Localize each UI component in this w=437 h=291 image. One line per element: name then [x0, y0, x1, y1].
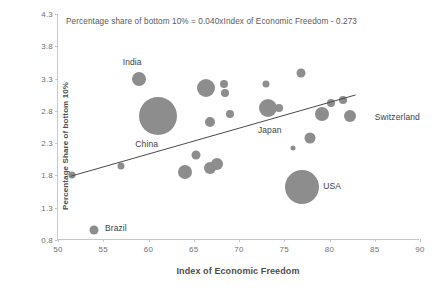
data-bubble	[263, 80, 270, 87]
y-axis-tick-mark	[55, 46, 58, 47]
data-bubble	[275, 104, 283, 112]
data-bubble	[68, 172, 75, 179]
y-axis-tick-label: 0.8	[41, 236, 53, 245]
y-axis-tick-label: 4.3	[41, 10, 53, 19]
y-axis-tick-label: 1.3	[41, 203, 53, 212]
data-bubble	[197, 79, 215, 97]
data-bubble	[226, 110, 234, 118]
data-bubble	[211, 158, 223, 170]
x-axis-tick-label: 90	[415, 245, 424, 254]
x-axis-tick-label: 80	[325, 245, 334, 254]
data-bubble	[291, 146, 296, 151]
x-axis-tick-label: 50	[53, 245, 62, 254]
plot-area: 0.81.31.82.32.83.33.84.35055606570758085…	[57, 14, 419, 240]
data-bubble	[339, 96, 347, 104]
y-axis-tick-label: 3.8	[41, 42, 53, 51]
x-axis-tick-label: 70	[234, 245, 243, 254]
point-label-usa: USA	[323, 181, 341, 191]
data-bubble	[296, 69, 305, 78]
x-axis-tick-mark	[420, 239, 421, 242]
point-label-brazil: Brazil	[105, 223, 127, 233]
x-axis-tick-label: 75	[280, 245, 289, 254]
y-axis-tick-mark	[55, 14, 58, 15]
y-axis-tick-label: 2.8	[41, 106, 53, 115]
point-label-china: China	[135, 139, 158, 149]
regression-equation-annotation: Percentage share of bottom 10% = 0.040xI…	[66, 17, 357, 26]
data-bubble-brazil	[90, 226, 99, 235]
data-bubble-usa	[285, 170, 319, 204]
data-bubble	[192, 150, 201, 159]
data-bubble	[178, 165, 192, 179]
y-axis-tick-label: 3.3	[41, 74, 53, 83]
data-bubble	[304, 132, 315, 143]
point-label-japan: Japan	[258, 125, 282, 135]
point-label-switzerland: Switzerland	[375, 112, 420, 122]
x-axis-tick-label: 85	[370, 245, 379, 254]
data-bubble-india	[132, 72, 146, 86]
data-bubble	[327, 99, 335, 107]
data-bubble	[315, 107, 329, 121]
data-bubble	[221, 89, 229, 97]
x-axis-tick-mark	[284, 239, 285, 242]
x-axis-tick-mark	[194, 239, 195, 242]
bubble-chart: Percentage Share of bottom 10% 0.81.31.8…	[0, 0, 437, 291]
x-axis-title: Index of Economic Freedom	[57, 266, 419, 276]
y-axis-tick-mark	[55, 143, 58, 144]
y-axis-tick-mark	[55, 208, 58, 209]
y-axis-tick-label: 2.3	[41, 139, 53, 148]
point-label-india: India	[123, 57, 142, 67]
y-axis-tick-mark	[55, 79, 58, 80]
data-bubble	[220, 80, 228, 88]
x-axis-tick-mark	[58, 239, 59, 242]
data-bubble	[118, 162, 125, 169]
data-bubble	[205, 117, 215, 127]
x-axis-tick-label: 55	[99, 245, 108, 254]
data-bubble-china	[139, 97, 177, 135]
x-axis-tick-mark	[330, 239, 331, 242]
x-axis-tick-label: 65	[189, 245, 198, 254]
y-axis-tick-mark	[55, 111, 58, 112]
y-axis-tick-mark	[55, 175, 58, 176]
data-bubble-switzerland	[344, 110, 356, 122]
x-axis-tick-mark	[239, 239, 240, 242]
y-axis-tick-label: 1.8	[41, 171, 53, 180]
x-axis-tick-mark	[375, 239, 376, 242]
x-axis-tick-mark	[149, 239, 150, 242]
x-axis-tick-label: 60	[144, 245, 153, 254]
x-axis-tick-mark	[103, 239, 104, 242]
